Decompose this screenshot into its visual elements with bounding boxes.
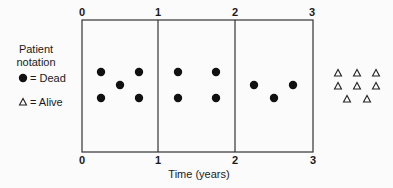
death-dot: [97, 68, 105, 76]
death-dot: [250, 81, 258, 89]
death-dot: [212, 68, 220, 76]
survival-diagram: 0 1 2 3 0 1 2 3 Time (years) Patient not…: [0, 0, 393, 188]
legend-dead-label: = Dead: [30, 72, 66, 84]
top-tick-3: 3: [309, 6, 315, 18]
alive-triangle-icon: [344, 96, 351, 103]
top-tick-0: 0: [79, 6, 85, 18]
death-dot: [135, 68, 143, 76]
death-dot: [212, 94, 220, 102]
death-dot: [174, 94, 182, 102]
death-dot: [97, 94, 105, 102]
bottom-tick-2: 2: [232, 154, 238, 166]
top-tick-1: 1: [155, 6, 161, 18]
bottom-tick-0: 0: [79, 154, 85, 166]
alive-triangle-icon: [335, 70, 342, 77]
legend-title-line2: notation: [16, 56, 55, 68]
death-dot: [135, 94, 143, 102]
death-dot: [116, 81, 124, 89]
bottom-tick-3: 3: [310, 154, 316, 166]
dead-legend-icon: [19, 74, 27, 82]
alive-triangle-icon: [354, 70, 361, 77]
legend-title-line1: Patient: [19, 43, 53, 55]
alive-triangle-icon: [354, 83, 361, 90]
alive-triangle-icon: [364, 96, 371, 103]
legend-alive-label: = Alive: [30, 96, 63, 108]
death-dot: [270, 94, 278, 102]
alive-triangle-icon: [373, 83, 380, 90]
alive-triangle-icon: [373, 70, 380, 77]
top-tick-2: 2: [232, 6, 238, 18]
alive-triangle-icon: [335, 83, 342, 90]
interval-1-2-deaths: [174, 68, 220, 102]
x-axis-label: Time (years): [168, 168, 229, 180]
interval-2-3-deaths: [250, 81, 297, 102]
bottom-tick-1: 1: [155, 154, 161, 166]
death-dot: [289, 81, 297, 89]
interval-0-1-deaths: [97, 68, 143, 102]
death-dot: [174, 68, 182, 76]
survivors-group: [335, 70, 380, 103]
alive-legend-icon: [20, 99, 27, 106]
